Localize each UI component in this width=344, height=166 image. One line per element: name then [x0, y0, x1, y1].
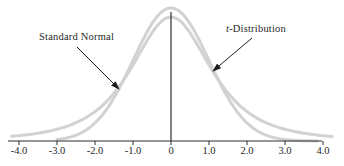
x-tick-label: -1.0 — [125, 145, 142, 156]
t-distribution-arrow — [213, 38, 252, 71]
x-tick-label: -4.0 — [11, 145, 28, 156]
x-tick-label: 0 — [168, 145, 173, 156]
x-tick-label: -3.0 — [49, 145, 66, 156]
x-tick-label: 3.0 — [278, 145, 291, 156]
x-tick-label: 1.0 — [202, 145, 215, 156]
t-distribution-label: t-Distribution — [226, 23, 286, 34]
x-tick-label: 4.0 — [316, 145, 329, 156]
standard-normal-label: Standard Normal — [39, 31, 114, 42]
x-tick-label: 2.0 — [240, 145, 253, 156]
x-tick-label: -2.0 — [87, 145, 104, 156]
plot-canvas — [0, 0, 344, 166]
standard-normal-arrow — [77, 47, 119, 89]
t-distribution-label-suffix: -Distribution — [229, 23, 286, 34]
distribution-comparison-figure: Standard Normal t-Distribution -4.0-3.0-… — [0, 0, 344, 166]
